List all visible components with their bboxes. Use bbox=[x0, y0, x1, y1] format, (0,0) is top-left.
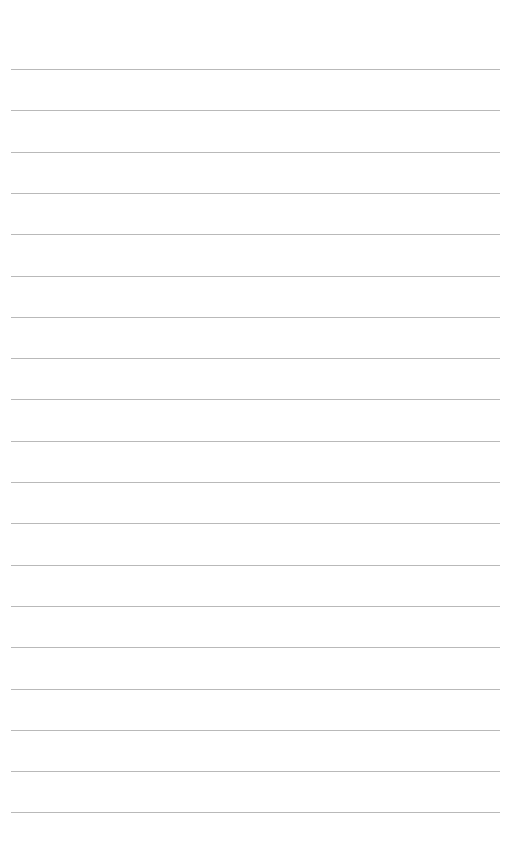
ruled-line bbox=[11, 730, 500, 731]
ruled-line bbox=[11, 110, 500, 111]
ruled-line bbox=[11, 276, 500, 277]
ruled-line bbox=[11, 69, 500, 70]
ruled-line bbox=[11, 482, 500, 483]
ruled-line bbox=[11, 689, 500, 690]
ruled-line bbox=[11, 317, 500, 318]
ruled-line bbox=[11, 647, 500, 648]
ruled-line bbox=[11, 399, 500, 400]
ruled-line bbox=[11, 812, 500, 813]
ruled-line bbox=[11, 234, 500, 235]
ruled-line bbox=[11, 441, 500, 442]
ruled-line bbox=[11, 771, 500, 772]
ruled-line bbox=[11, 606, 500, 607]
ruled-line bbox=[11, 358, 500, 359]
ruled-line bbox=[11, 565, 500, 566]
ruled-line bbox=[11, 523, 500, 524]
ruled-line bbox=[11, 152, 500, 153]
ruled-line bbox=[11, 193, 500, 194]
